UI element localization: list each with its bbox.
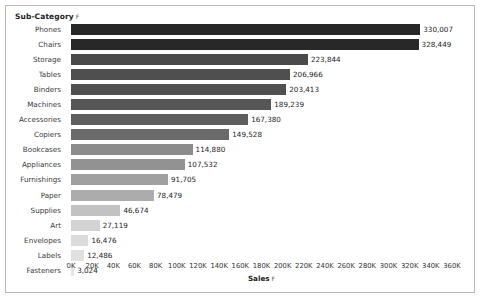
bar-value-label: 78,479 bbox=[157, 191, 182, 200]
bar-value-label: 27,119 bbox=[103, 221, 128, 230]
x-axis-tick-label: 220K bbox=[295, 262, 312, 270]
bar-row[interactable]: Copiers149,528 bbox=[6, 127, 474, 142]
bar-row[interactable]: Accessories167,380 bbox=[6, 112, 474, 127]
bar-track: 78,479 bbox=[71, 188, 474, 203]
bar-track: 330,007 bbox=[71, 22, 474, 37]
x-axis-tick-label: 160K bbox=[232, 262, 249, 270]
bar-value-label: 114,880 bbox=[196, 145, 226, 154]
bar[interactable] bbox=[71, 54, 308, 65]
category-label: Chairs bbox=[6, 37, 65, 52]
bar-value-label: 16,476 bbox=[91, 236, 116, 245]
sub-category-header-label: Sub-Category bbox=[15, 12, 74, 21]
x-axis-tick-label: 20K bbox=[86, 262, 99, 270]
category-label: Accessories bbox=[6, 112, 65, 127]
category-label: Fasteners bbox=[6, 263, 65, 278]
bar-row[interactable]: Paper78,479 bbox=[6, 188, 474, 203]
bar[interactable] bbox=[71, 235, 88, 246]
bar-row[interactable]: Supplies46,674 bbox=[6, 203, 474, 218]
x-axis-sort-indicator-icon[interactable]: F bbox=[272, 275, 275, 282]
bar-value-label: 12,486 bbox=[87, 251, 112, 260]
x-axis-ticks: 0K20K40K60K80K100K120K140K160K180K200K22… bbox=[71, 262, 452, 274]
x-axis-tick-label: 280K bbox=[359, 262, 376, 270]
bar-row[interactable]: Chairs328,449 bbox=[6, 37, 474, 52]
category-label: Machines bbox=[6, 97, 65, 112]
bar-track: 328,449 bbox=[71, 37, 474, 52]
bar-track: 114,880 bbox=[71, 142, 474, 157]
x-axis-tick-label: 60K bbox=[128, 262, 141, 270]
bar-row[interactable]: Phones330,007 bbox=[6, 22, 474, 37]
bar[interactable] bbox=[71, 250, 84, 261]
bar[interactable] bbox=[71, 174, 168, 185]
category-label: Labels bbox=[6, 248, 65, 263]
bar-value-label: 107,532 bbox=[188, 160, 218, 169]
bar-row[interactable]: Binders203,413 bbox=[6, 82, 474, 97]
category-label: Phones bbox=[6, 22, 65, 37]
bar-value-label: 46,674 bbox=[123, 206, 148, 215]
bar-value-label: 91,705 bbox=[171, 175, 196, 184]
bar[interactable] bbox=[71, 205, 120, 216]
bar-row[interactable]: Storage223,844 bbox=[6, 52, 474, 67]
bar[interactable] bbox=[71, 220, 100, 231]
category-label: Supplies bbox=[6, 203, 65, 218]
bar-value-label: 330,007 bbox=[423, 25, 453, 34]
x-axis-tick-label: 340K bbox=[422, 262, 439, 270]
bar-row[interactable]: Appliances107,532 bbox=[6, 157, 474, 172]
x-axis-tick-label: 300K bbox=[380, 262, 397, 270]
x-axis-tick-label: 100K bbox=[168, 262, 185, 270]
category-label: Storage bbox=[6, 52, 65, 67]
bar-row[interactable]: Envelopes16,476 bbox=[6, 233, 474, 248]
bar-track: 149,528 bbox=[71, 127, 474, 142]
bar[interactable] bbox=[71, 24, 420, 35]
bar[interactable] bbox=[71, 190, 154, 201]
bar-row[interactable]: Labels12,486 bbox=[6, 248, 474, 263]
category-label: Copiers bbox=[6, 127, 65, 142]
bar[interactable] bbox=[71, 114, 248, 125]
bar[interactable] bbox=[71, 69, 290, 80]
category-label: Art bbox=[6, 218, 65, 233]
bar-track: 223,844 bbox=[71, 52, 474, 67]
bar-row[interactable]: Tables206,966 bbox=[6, 67, 474, 82]
bar-value-label: 167,380 bbox=[251, 115, 281, 124]
bar-value-label: 223,844 bbox=[311, 55, 341, 64]
bar-track: 12,486 bbox=[71, 248, 474, 263]
bar-value-label: 328,449 bbox=[422, 40, 452, 49]
x-axis-tick-label: 40K bbox=[107, 262, 120, 270]
bar[interactable] bbox=[71, 39, 419, 50]
bar-value-label: 203,413 bbox=[289, 85, 319, 94]
x-axis-title[interactable]: Sales F bbox=[71, 274, 452, 283]
bar[interactable] bbox=[71, 99, 271, 110]
x-axis-tick-label: 260K bbox=[337, 262, 354, 270]
bar-track: 189,239 bbox=[71, 97, 474, 112]
bar-value-label: 149,528 bbox=[232, 130, 262, 139]
bar-track: 16,476 bbox=[71, 233, 474, 248]
category-label: Envelopes bbox=[6, 233, 65, 248]
bar-row[interactable]: Machines189,239 bbox=[6, 97, 474, 112]
bar[interactable] bbox=[71, 84, 286, 95]
x-axis-tick-label: 80K bbox=[149, 262, 162, 270]
x-axis-tick-label: 320K bbox=[401, 262, 418, 270]
bar-value-label: 206,966 bbox=[293, 70, 323, 79]
bar-row[interactable]: Art27,119 bbox=[6, 218, 474, 233]
bar-row[interactable]: Furnishings91,705 bbox=[6, 172, 474, 187]
x-axis-title-label: Sales bbox=[248, 274, 270, 283]
chart-panel: Sub-Category F Phones330,007Chairs328,44… bbox=[5, 5, 475, 293]
sort-indicator-icon[interactable]: F bbox=[76, 13, 80, 20]
bar-track: 46,674 bbox=[71, 203, 474, 218]
bar[interactable] bbox=[71, 144, 193, 155]
bar[interactable] bbox=[71, 159, 185, 170]
bar[interactable] bbox=[71, 129, 229, 140]
bar-row[interactable]: Bookcases114,880 bbox=[6, 142, 474, 157]
category-label: Appliances bbox=[6, 157, 65, 172]
category-label: Tables bbox=[6, 67, 65, 82]
bar-track: 107,532 bbox=[71, 157, 474, 172]
category-label: Paper bbox=[6, 188, 65, 203]
sub-category-field-header[interactable]: Sub-Category F bbox=[15, 12, 79, 21]
category-label: Binders bbox=[6, 82, 65, 97]
bar-track: 206,966 bbox=[71, 67, 474, 82]
x-axis-tick-label: 180K bbox=[253, 262, 270, 270]
x-axis-tick-label: 140K bbox=[210, 262, 227, 270]
bar-track: 167,380 bbox=[71, 112, 474, 127]
x-axis-tick-label: 200K bbox=[274, 262, 291, 270]
category-label: Bookcases bbox=[6, 142, 65, 157]
bar-chart-plot-area: Phones330,007Chairs328,449Storage223,844… bbox=[6, 22, 474, 260]
